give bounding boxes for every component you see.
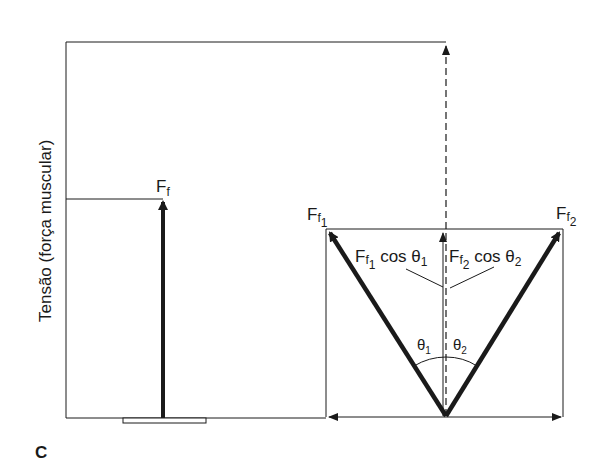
muscle-attachment-base <box>123 418 206 423</box>
ff-label: Ff <box>156 177 170 199</box>
theta1-arc <box>414 357 446 366</box>
force-vector-diagram: Tensão (força muscular) Ff Ff1 Ff2 Ff1 c… <box>0 0 609 471</box>
leader-line-2 <box>450 267 494 288</box>
leader-line-1 <box>406 269 443 287</box>
ff2-label: Ff2 <box>556 204 577 229</box>
theta2-arc <box>446 357 477 366</box>
component1-label: Ff1 cos θ1 <box>355 247 428 272</box>
single-force-ff <box>123 202 206 423</box>
resolved-forces <box>326 46 563 417</box>
component2-label: Ff2 cos θ2 <box>449 247 522 272</box>
y-axis-label: Tensão (força muscular) <box>36 140 55 322</box>
axes <box>66 42 446 418</box>
theta2-label: θ2 <box>453 336 467 356</box>
ff1-label: Ff1 <box>307 205 328 230</box>
panel-label: C <box>35 443 47 462</box>
theta1-label: θ1 <box>417 336 431 356</box>
